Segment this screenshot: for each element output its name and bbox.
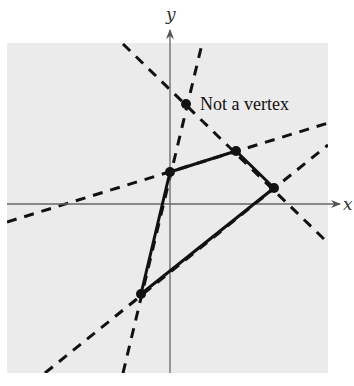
x-axis-label: x bbox=[343, 194, 353, 214]
not-a-vertex-label: Not a vertex bbox=[200, 94, 289, 114]
vertex-a bbox=[165, 167, 175, 177]
region-background bbox=[7, 43, 328, 373]
vertex-b bbox=[231, 146, 241, 156]
vertex-d bbox=[136, 289, 146, 299]
non-vertex-point bbox=[181, 99, 191, 109]
diagram-canvas: x y Not a vertex bbox=[0, 0, 354, 386]
y-axis-label: y bbox=[165, 4, 176, 24]
vertex-c bbox=[269, 183, 279, 193]
